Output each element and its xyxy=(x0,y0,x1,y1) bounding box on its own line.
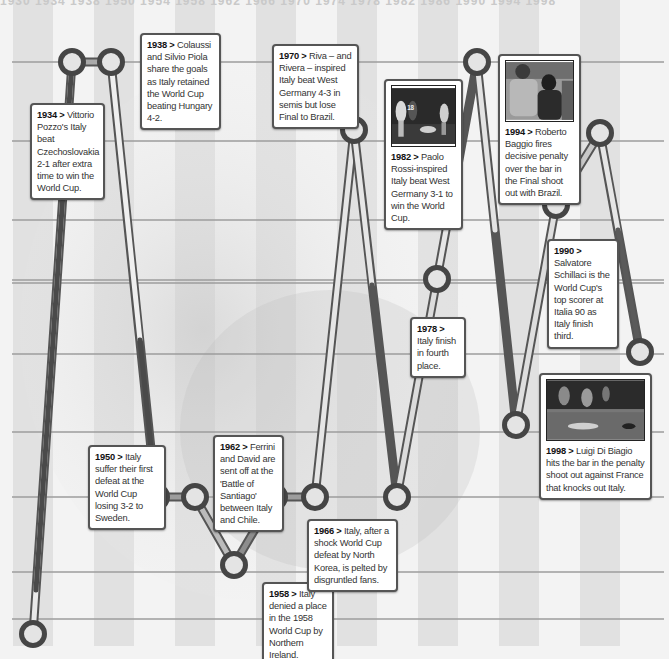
callout-text: Paolo Rossi-inspired Italy beat West Ger… xyxy=(391,152,453,223)
callout-1934: 1934 > Vittorio Pozzo's Italy beat Czech… xyxy=(30,103,105,200)
arrow-icon: > xyxy=(336,526,341,536)
arrow-icon: > xyxy=(527,127,532,137)
callout-year: 1990 xyxy=(554,246,574,256)
callout-1982: 18 1982 > Paolo Rossi-inspired Italy bea… xyxy=(384,79,463,230)
timeline-graphic: 1930 1934 1938 1950 1954 1958 1962 1966 … xyxy=(0,0,669,659)
arrow-icon: > xyxy=(242,442,247,452)
arrow-icon: > xyxy=(568,446,573,456)
photo-1982-rossi: 18 xyxy=(391,85,456,147)
callout-1994: 1994 > Roberto Baggio fires decisive pen… xyxy=(498,54,581,205)
callout-year: 1934 xyxy=(37,110,57,120)
node-1994 xyxy=(589,122,612,145)
callout-year: 1982 xyxy=(391,152,411,162)
node-1998 xyxy=(629,341,652,364)
callout-1978: 1978 > Italy finish in fourth place. xyxy=(410,317,466,378)
node-1934 xyxy=(61,51,84,74)
node-1930 xyxy=(22,623,45,646)
node-1982 xyxy=(466,51,489,74)
callout-1970: 1970 > Riva – and Rivera – inspired Ital… xyxy=(272,44,359,129)
callout-text: Italy suffer their first defeat at the W… xyxy=(95,452,153,523)
arrow-icon: > xyxy=(439,324,444,334)
node-1938 xyxy=(100,51,123,74)
callout-1962: 1962 > Ferrini and David are sent off at… xyxy=(213,435,284,532)
callout-year: 1970 xyxy=(279,51,299,61)
callout-text: Salvatore Schillaci is the World Cup's t… xyxy=(554,258,610,341)
callout-1966: 1966 > Italy, after a shock World Cup de… xyxy=(307,519,398,592)
callout-text: Ferrini and David are sent off at the 'B… xyxy=(220,442,275,525)
callout-year: 1958 xyxy=(269,589,289,599)
callout-year: 1966 xyxy=(314,526,334,536)
arrow-icon: > xyxy=(576,246,581,256)
node-1958 xyxy=(223,554,246,577)
callout-1950: 1950 > Italy suffer their first defeat a… xyxy=(88,445,166,530)
arrow-icon: > xyxy=(117,452,122,462)
callout-year: 1994 xyxy=(505,127,525,137)
node-1966 xyxy=(304,486,327,509)
callout-1958: 1958 > Italy denied a place in the 1958 … xyxy=(262,582,334,659)
node-1954 xyxy=(184,486,207,509)
arrow-icon: > xyxy=(169,40,174,50)
photo-1998-di-biagio xyxy=(546,379,645,441)
photo-1994-baggio xyxy=(505,60,574,122)
arrow-icon: > xyxy=(413,152,418,162)
callout-year: 1978 xyxy=(417,324,437,334)
arrow-icon: > xyxy=(291,589,296,599)
callout-text: Italy denied a place in the 1958 World C… xyxy=(269,589,327,659)
node-1986 xyxy=(505,414,528,437)
arrow-icon: > xyxy=(301,51,306,61)
callout-year: 1938 xyxy=(147,40,167,50)
callout-year: 1998 xyxy=(546,446,566,456)
callout-1998: 1998 > Luigi Di Biagio hits the bar in t… xyxy=(539,373,652,500)
svg-text:18: 18 xyxy=(407,104,414,111)
callout-1938: 1938 > Colaussi and Silvio Piola share t… xyxy=(140,33,221,130)
callout-text: Riva – and Rivera – inspired Italy beat … xyxy=(279,51,351,122)
callout-year: 1962 xyxy=(220,442,240,452)
callout-year: 1950 xyxy=(95,452,115,462)
callout-1990: 1990 > Salvatore Schillaci is the World … xyxy=(547,239,619,349)
arrow-icon: > xyxy=(59,110,64,120)
callout-text: Vittorio Pozzo's Italy beat Czechoslovak… xyxy=(37,110,99,193)
node-1978 xyxy=(426,268,449,291)
callout-text: Colaussi and Silvio Piola share the goal… xyxy=(147,40,212,123)
callout-text: Roberto Baggio fires decisive penalty ov… xyxy=(505,127,568,198)
callout-text: Italy finish in fourth place. xyxy=(417,336,456,370)
node-1974 xyxy=(386,486,409,509)
